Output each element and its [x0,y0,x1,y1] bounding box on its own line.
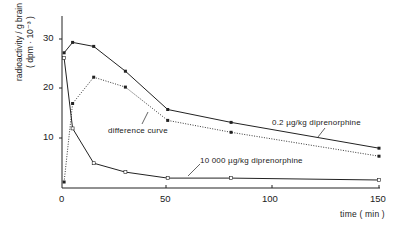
data-point-marker [71,102,74,105]
pointer-low-dose [318,128,325,137]
data-point-marker [378,155,381,158]
data-point-marker [230,177,233,180]
pointer-diff [142,112,148,124]
data-point-marker [378,179,381,182]
annotation-low-dose: 0.2 µg/kg diprenorphine [272,118,361,127]
data-point-marker [92,45,95,48]
xtick-0: 0 [59,193,64,204]
ytick-20: 20 [43,81,54,92]
xtick-50: 50 [160,193,171,204]
y-axis-label-line1: radioactivity / g brain [14,0,25,112]
data-point-marker [63,181,66,184]
data-point-marker [230,121,233,124]
data-point-marker [71,41,74,44]
data-point-marker [230,131,233,134]
data-point-marker [92,76,95,79]
y-axis-label-units: ( dpm · 10⁻³ ) [25,0,36,112]
data-point-marker [166,119,169,122]
line-chart [0,0,405,225]
data-point-marker [378,147,381,150]
pointer-high-dose [188,164,200,176]
data-point-marker [124,70,127,73]
data-point-marker [166,108,169,111]
ytick-10: 10 [43,131,54,142]
data-point-marker [63,56,66,59]
xtick-100: 100 [262,193,278,204]
data-point-marker [166,177,169,180]
data-point-marker [124,171,127,174]
data-point-marker [63,51,66,54]
annotation-difference-curve: difference curve [108,126,168,135]
y-axis-label: radioactivity / g brain ( dpm · 10⁻³ ) [14,0,36,112]
data-point-marker [92,162,95,165]
data-point-marker [71,127,74,130]
xtick-150: 150 [370,193,386,204]
ytick-30: 30 [43,32,54,43]
x-axis-label: time ( min ) [340,209,385,219]
annotation-high-dose: 10 000 µg/kg diprenorphine [200,156,303,165]
data-point-marker [124,86,127,89]
